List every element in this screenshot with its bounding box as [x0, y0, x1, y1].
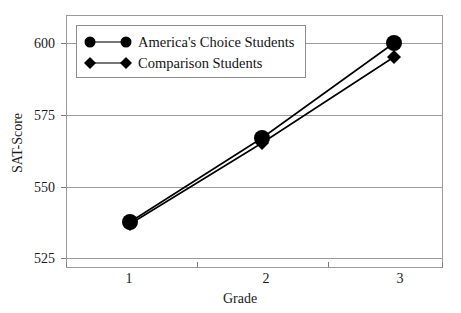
x-tick-label-3: 3: [397, 271, 404, 286]
x-tick-label-2: 2: [263, 271, 270, 286]
circle-marker: [85, 37, 96, 48]
y-tick-label-600: 600: [34, 36, 55, 51]
circle-marker: [121, 37, 132, 48]
circle-marker: [122, 214, 138, 230]
legend-label-comparison: Comparison Students: [138, 55, 263, 71]
y-tick-label-525: 525: [34, 251, 55, 266]
x-axis-title: Grade: [223, 291, 257, 306]
chart-container: 600 575 550 525 1 2 3 SAT-Score Grade: [0, 0, 461, 313]
sat-score-line-chart: 600 575 550 525 1 2 3 SAT-Score Grade: [0, 0, 461, 313]
y-axis-title: SAT-Score: [10, 113, 25, 173]
legend-label-americas-choice: America's Choice Students: [138, 34, 295, 50]
y-tick-label-550: 550: [34, 180, 55, 195]
x-tick-label-1: 1: [126, 271, 133, 286]
circle-marker: [254, 130, 270, 146]
y-tick-label-575: 575: [34, 108, 55, 123]
chart-legend: America's Choice Students Comparison Stu…: [77, 26, 306, 78]
circle-marker: [386, 35, 402, 51]
